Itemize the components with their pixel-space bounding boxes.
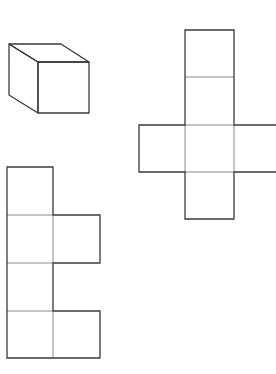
figure-svg xyxy=(0,0,276,374)
cube-drawing xyxy=(9,44,89,113)
cross-net xyxy=(139,30,276,219)
cube-front-face xyxy=(38,62,89,113)
figure-canvas xyxy=(0,0,276,374)
cube-left-face xyxy=(9,44,38,113)
side-net xyxy=(7,167,100,358)
cube-top-face xyxy=(9,44,89,62)
